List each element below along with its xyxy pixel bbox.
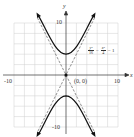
- x-max-tick-label: 10: [114, 78, 120, 84]
- hyperbola-plot: [0, 0, 134, 137]
- y-max-tick-label: 10: [56, 19, 62, 25]
- y-axis-label: y: [63, 3, 66, 9]
- eq-rhs: = 1: [108, 48, 115, 53]
- eq-den1: 16: [89, 51, 93, 55]
- fraction-2: x² 4: [101, 46, 106, 55]
- fraction-1: y² 16: [88, 46, 94, 55]
- eq-op: −: [96, 48, 99, 53]
- eq-den2: 4: [102, 51, 104, 55]
- origin-label: (0, 0): [74, 78, 87, 84]
- y-min-tick-label: -10: [52, 124, 60, 130]
- axes: [3, 11, 129, 134]
- x-axis-label: x: [130, 72, 133, 78]
- origin-point: [64, 73, 67, 76]
- equation-label: y² 16 − x² 4 = 1: [88, 46, 114, 55]
- x-min-tick-label: -10: [4, 78, 12, 84]
